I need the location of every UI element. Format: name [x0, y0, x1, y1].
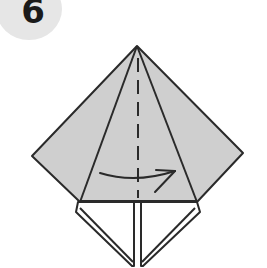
origami-diagram [0, 0, 267, 268]
bottom-flaps [76, 202, 200, 266]
